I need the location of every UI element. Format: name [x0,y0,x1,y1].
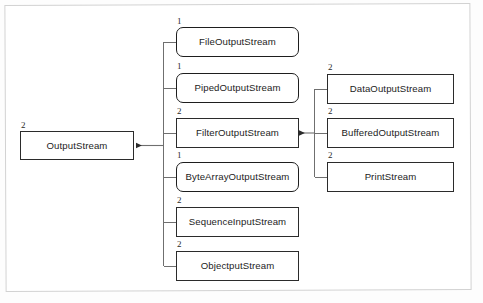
node-filteroutputstream-label: FilterOutputStream [196,128,279,138]
node-printstream-label: PrintStream [365,172,417,182]
node-objectputstream[interactable]: ObjectputStream [176,251,299,281]
node-sequenceinputstream-label: SequenceInputStream [189,217,286,227]
multiplicity-filteroutputstream: 2 [177,107,182,116]
node-fileoutputstream[interactable]: FileOutputStream [176,27,299,57]
multiplicity-bufferedoutputstream: 2 [328,107,333,116]
multiplicity-objectputstream: 2 [177,240,182,249]
node-bytearrayoutputstream-label: ByteArrayOutputStream [186,172,290,182]
node-bytearrayoutputstream[interactable]: ByteArrayOutputStream [176,162,299,192]
multiplicity-printstream: 2 [328,151,333,160]
node-outputstream[interactable]: OutputStream [20,131,134,160]
node-printstream[interactable]: PrintStream [327,162,454,192]
node-objectputstream-label: ObjectputStream [201,261,275,271]
node-sequenceinputstream[interactable]: SequenceInputStream [176,207,299,237]
node-dataoutputstream[interactable]: DataOutputStream [327,74,454,104]
node-outputstream-label: OutputStream [47,141,108,151]
multiplicity-fileoutputstream: 1 [177,17,182,26]
multiplicity-outputstream: 2 [21,121,26,130]
node-bufferedoutputstream[interactable]: BufferedOutputStream [327,118,454,148]
multiplicity-dataoutputstream: 2 [328,63,333,72]
node-pipedoutputstream-label: PipedOutputStream [195,83,281,93]
node-pipedoutputstream[interactable]: PipedOutputStream [176,73,299,103]
class-diagram: 2 OutputStream 1 FileOutputStream 1 Pipe… [0,0,483,303]
multiplicity-bytearrayoutputstream: 1 [177,151,182,160]
node-fileoutputstream-label: FileOutputStream [199,37,276,47]
node-filteroutputstream[interactable]: FilterOutputStream [176,118,299,148]
node-dataoutputstream-label: DataOutputStream [350,84,432,94]
node-bufferedoutputstream-label: BufferedOutputStream [342,128,440,138]
multiplicity-pipedoutputstream: 1 [177,62,182,71]
multiplicity-sequenceinputstream: 2 [177,196,182,205]
